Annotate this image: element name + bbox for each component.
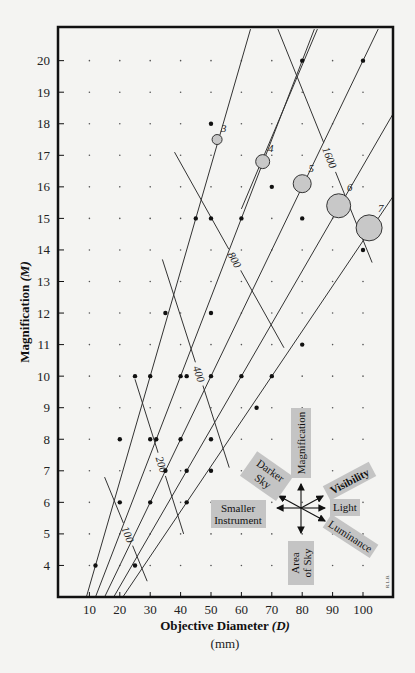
grid-dot xyxy=(210,533,212,535)
grid-dot xyxy=(271,407,273,409)
x-axis-unit: (mm) xyxy=(211,636,240,651)
grid-dot xyxy=(241,407,243,409)
grid-dot xyxy=(149,470,151,472)
grid-dot xyxy=(119,91,121,93)
x-axis-title: Objective Diameter (D) xyxy=(160,618,290,633)
highlighted-point xyxy=(178,374,182,378)
y-tick-label: 17 xyxy=(37,148,51,163)
highlighted-point xyxy=(148,500,152,504)
grid-dot xyxy=(241,565,243,567)
grid-dot xyxy=(362,312,364,314)
y-tick-label: 20 xyxy=(37,53,50,68)
grid-dot xyxy=(180,91,182,93)
exit-pupil-circle-3 xyxy=(212,135,222,145)
highlighted-point xyxy=(178,437,182,441)
grid-dot xyxy=(271,60,273,62)
grid-dot xyxy=(241,186,243,188)
grid-dot xyxy=(89,249,91,251)
grid-dot xyxy=(241,281,243,283)
legend-arrows xyxy=(277,484,325,533)
y-axis-ticks: 4567891011121314151617181920 xyxy=(37,53,64,573)
grid-dot xyxy=(332,565,334,567)
y-tick-label: 6 xyxy=(44,495,51,510)
grid-dot xyxy=(362,281,364,283)
grid-dot xyxy=(89,407,91,409)
highlighted-point xyxy=(184,500,188,504)
y-tick-label: 16 xyxy=(37,179,51,194)
highlighted-point xyxy=(361,248,365,252)
grid-dot xyxy=(149,186,151,188)
grid-dot xyxy=(332,375,334,377)
grid-dot xyxy=(362,375,364,377)
grid-dot xyxy=(210,60,212,62)
grid-dot xyxy=(301,155,303,157)
grid-dot xyxy=(119,344,121,346)
exit-pupil-line-4 xyxy=(95,29,314,597)
y-tick-label: 9 xyxy=(44,400,51,415)
highlighted-points xyxy=(93,58,365,567)
highlighted-point xyxy=(154,437,158,441)
legend-light: Light xyxy=(333,501,357,513)
grid-dot xyxy=(332,344,334,346)
highlighted-point xyxy=(300,342,304,346)
grid-dot xyxy=(89,438,91,440)
highlighted-point xyxy=(300,216,304,220)
grid-dot xyxy=(301,502,303,504)
y-tick-label: 7 xyxy=(44,463,51,478)
grid-dot xyxy=(332,312,334,314)
grid-dot xyxy=(149,155,151,157)
highlighted-point xyxy=(184,374,188,378)
grid-dot xyxy=(119,312,121,314)
grid-dot xyxy=(89,218,91,220)
grid-dot xyxy=(89,344,91,346)
grid-dot xyxy=(180,249,182,251)
x-tick-label: 80 xyxy=(296,602,309,617)
x-tick-label: 50 xyxy=(205,602,218,617)
exit-pupil-circle-6 xyxy=(327,194,351,218)
grid-dot xyxy=(119,155,121,157)
grid-dot xyxy=(180,218,182,220)
highlighted-point xyxy=(133,563,137,567)
grid-dot xyxy=(362,407,364,409)
grid-dot xyxy=(301,375,303,377)
grid-dot xyxy=(119,123,121,125)
grid-dot xyxy=(332,91,334,93)
highlighted-point xyxy=(93,563,97,567)
x-tick-label: 70 xyxy=(265,602,278,617)
grid-dot xyxy=(89,565,91,567)
highlighted-point xyxy=(209,311,213,315)
grid-dot xyxy=(119,218,121,220)
grid-dot xyxy=(301,281,303,283)
grid-dot xyxy=(332,438,334,440)
highlighted-point xyxy=(270,374,274,378)
grid-dot xyxy=(241,155,243,157)
y-tick-label: 19 xyxy=(37,85,50,100)
grid-dot xyxy=(89,155,91,157)
grid-dot xyxy=(271,438,273,440)
x-tick-label: 20 xyxy=(113,602,126,617)
legend-magnification: Magnification xyxy=(295,411,307,474)
grid-dot xyxy=(119,470,121,472)
highlighted-point xyxy=(148,374,152,378)
grid-dot xyxy=(210,281,212,283)
grid-dot xyxy=(180,407,182,409)
highlighted-point xyxy=(209,374,213,378)
grid-dot xyxy=(119,281,121,283)
grid-dot xyxy=(332,407,334,409)
exit-pupil-label: 5 xyxy=(309,162,315,174)
grid-dot xyxy=(271,155,273,157)
grid-dot xyxy=(149,218,151,220)
y-tick-label: 11 xyxy=(37,337,50,352)
grid-dot xyxy=(119,249,121,251)
highlighted-point xyxy=(133,374,137,378)
grid-dot xyxy=(241,91,243,93)
grid-dot xyxy=(180,123,182,125)
highlighted-point xyxy=(300,58,304,62)
grid-dot xyxy=(362,91,364,93)
grid-dot xyxy=(119,60,121,62)
y-tick-label: 5 xyxy=(44,526,51,541)
exit-pupil-label: 4 xyxy=(268,142,274,154)
highlighted-point xyxy=(184,469,188,473)
highlighted-point xyxy=(209,437,213,441)
y-tick-label: 8 xyxy=(44,432,51,447)
